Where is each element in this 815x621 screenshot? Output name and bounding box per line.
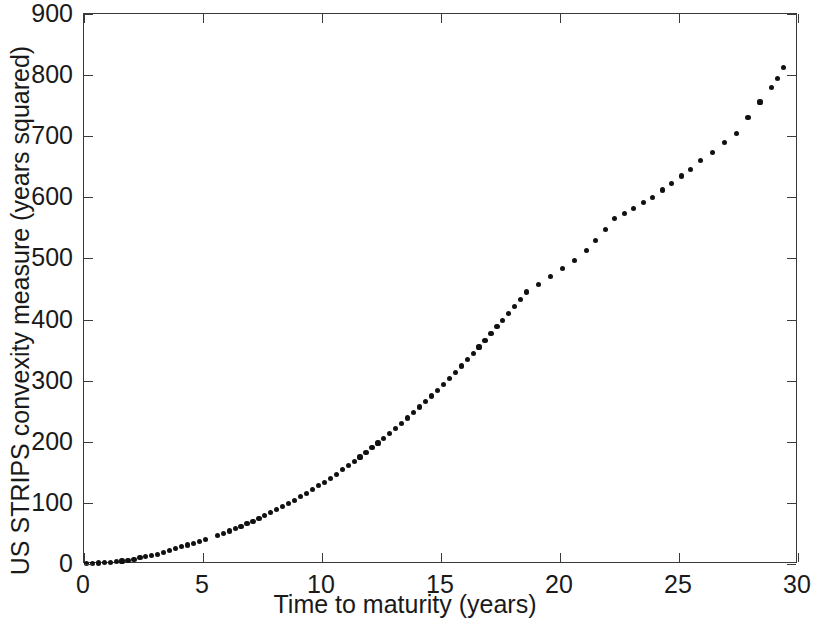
data-point [221,531,226,536]
data-point [465,357,470,362]
x-tick-mark [84,553,85,562]
data-point [310,487,315,492]
data-point [641,200,646,205]
data-point [322,480,327,485]
data-point [203,537,208,542]
data-point [233,526,238,531]
data-point [399,421,404,426]
data-point [417,404,422,409]
data-point [328,476,333,481]
data-point [155,552,160,557]
y-tick-mark [84,136,93,137]
data-point [352,459,357,464]
data-point [244,521,249,526]
data-point [393,426,398,431]
data-point [292,498,297,503]
data-point [114,559,119,564]
data-point [459,363,464,368]
data-point [453,370,458,375]
data-point [102,560,107,565]
data-point [471,351,476,356]
data-point [631,206,636,211]
y-tick-mark-right [787,503,796,504]
x-tick-mark [798,553,799,562]
data-point [387,431,392,436]
data-point [96,560,101,565]
data-point [781,65,786,70]
y-tick-mark [84,75,93,76]
data-point [381,436,386,441]
data-point [476,344,481,349]
data-point [536,282,541,287]
data-point [734,131,739,136]
data-point [698,158,703,163]
data-point [584,248,589,253]
data-point [119,558,124,563]
data-point [650,195,655,200]
data-point [405,415,410,420]
y-tick-mark [84,564,93,565]
data-point [524,289,529,294]
data-point [548,274,553,279]
x-axis-title: Time to maturity (years) [0,590,810,619]
data-point [286,501,291,506]
data-point [593,238,598,243]
y-tick-mark-right [787,14,796,15]
data-point [745,115,750,120]
data-point [769,85,774,90]
x-tick-mark-top [322,14,323,23]
y-tick-mark-right [787,564,796,565]
data-point [274,507,279,512]
y-tick-mark-right [787,136,796,137]
data-point [149,553,154,558]
data-point [494,324,499,329]
y-tick-mark [84,14,93,15]
data-point [435,388,440,393]
data-point [215,533,220,538]
data-point [411,410,416,415]
data-point [688,167,693,172]
data-point [250,519,255,524]
x-tick-mark-top [679,14,680,23]
data-point [357,454,362,459]
data-point [429,393,434,398]
data-point [256,516,261,521]
data-point [137,555,142,560]
data-point [622,211,627,216]
data-point [298,494,303,499]
y-tick-mark [84,503,93,504]
data-point [185,542,190,547]
x-tick-mark [322,553,323,562]
y-axis-title: US STRIPS convexity measure (years squar… [5,0,35,621]
x-tick-mark [441,553,442,562]
y-tick-mark-right [787,197,796,198]
x-tick-mark-top [441,14,442,23]
y-tick-mark-right [787,442,796,443]
x-tick-mark-top [84,14,85,23]
data-point [512,304,517,309]
y-tick-mark-right [787,75,796,76]
data-point [363,450,368,455]
data-point [131,557,136,562]
y-tick-mark-right [787,258,796,259]
x-tick-mark-top [798,14,799,23]
data-point [268,510,273,515]
data-point [179,544,184,549]
data-point [334,472,339,477]
data-point [346,463,351,468]
y-tick-mark-right [787,381,796,382]
data-point [669,181,674,186]
data-point [679,173,684,178]
data-point [660,187,665,192]
data-point [125,558,130,563]
data-point [161,550,166,555]
data-point [262,513,267,518]
data-point [143,554,148,559]
data-point [488,331,493,336]
data-point [191,541,196,546]
data-point [757,99,762,104]
data-point [238,524,243,529]
plot-frame [83,13,797,563]
data-point [603,227,608,232]
data-point [722,140,727,145]
